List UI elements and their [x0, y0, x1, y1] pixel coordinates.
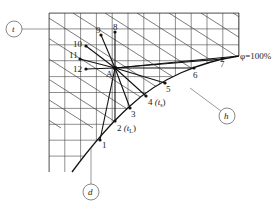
svg-text:h: h [224, 111, 229, 121]
point-a-label: A [106, 69, 113, 79]
label-point-10: 10 [73, 39, 83, 49]
label-point-12: 12 [73, 64, 82, 74]
grid [0, 13, 276, 172]
svg-text:4 (ts): 4 (ts) [148, 97, 166, 108]
label-point-6: 6 [193, 70, 198, 80]
label-point-7: 7 [220, 59, 225, 69]
label-point-9: 9 [96, 25, 101, 35]
phi-label: φ=100% [240, 51, 272, 61]
label-point-2: 2 (tL) [117, 123, 136, 134]
label-point-3: 3 [131, 109, 136, 119]
callout-t: t [6, 21, 49, 37]
callout-d: d [83, 148, 99, 200]
label-point-1: 1 [102, 140, 107, 150]
state-points [78, 30, 223, 141]
label-point-4: 4 (ts) [148, 97, 166, 108]
callout-h: h [190, 88, 235, 124]
label-point-11: 11 [69, 50, 78, 60]
point-a-marker [113, 66, 117, 70]
saturation-curve [72, 56, 239, 172]
psychrometric-diagram: A 1 2 (tL) 3 4 (ts) 5 6 7 8 9 10 11 12 φ… [0, 0, 276, 205]
label-point-8: 8 [113, 22, 118, 32]
svg-text:2 (tL): 2 (tL) [117, 123, 136, 134]
label-point-5: 5 [166, 84, 171, 94]
svg-text:d: d [88, 187, 93, 197]
